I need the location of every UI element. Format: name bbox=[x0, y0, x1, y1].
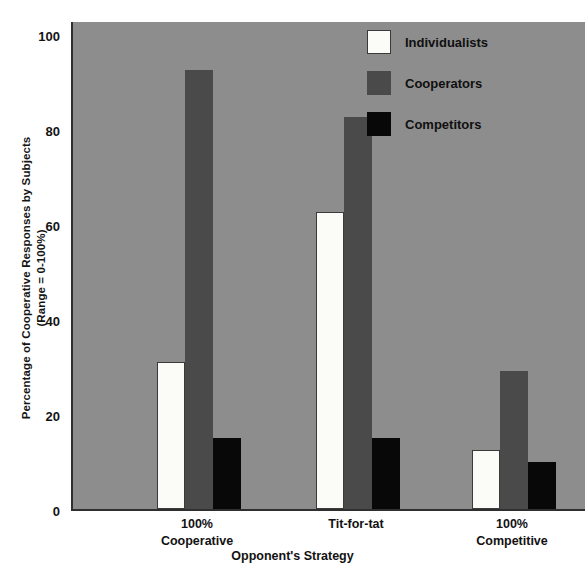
bar-individualists-2 bbox=[472, 450, 500, 509]
bar-cooperators-2 bbox=[500, 371, 528, 509]
legend-swatch-competitors-icon bbox=[367, 112, 391, 136]
bar-individualists-0 bbox=[157, 362, 185, 509]
bar-chart-figure: Percentage of Cooperative Responses by S… bbox=[0, 0, 585, 565]
y-tick-label: 80 bbox=[26, 124, 60, 139]
legend-label-cooperators: Cooperators bbox=[405, 76, 482, 91]
plot-area: Individualists Cooperators Competitors bbox=[71, 22, 585, 511]
x-tick-label: 100%Cooperative bbox=[161, 516, 233, 550]
y-tick-label: 40 bbox=[26, 314, 60, 329]
x-tick-label-line: 100% bbox=[161, 516, 233, 533]
bar-competitors-0 bbox=[213, 438, 241, 509]
bar-competitors-2 bbox=[528, 462, 556, 509]
legend-swatch-individualists-icon bbox=[367, 30, 391, 54]
x-tick-label-line: 100% bbox=[476, 516, 548, 533]
y-tick-label: 0 bbox=[26, 504, 60, 519]
bar-individualists-1 bbox=[316, 212, 344, 509]
legend-label-competitors: Competitors bbox=[405, 117, 482, 132]
x-tick-label: Tit-for-tat bbox=[328, 516, 383, 533]
y-axis-tick-labels: 020406080100 bbox=[26, 0, 60, 565]
y-tick-label: 60 bbox=[26, 219, 60, 234]
legend-label-individualists: Individualists bbox=[405, 35, 488, 50]
y-tick-label: 20 bbox=[26, 409, 60, 424]
x-tick-label-line: Tit-for-tat bbox=[328, 516, 383, 533]
legend: Individualists Cooperators Competitors bbox=[367, 30, 488, 136]
bar-competitors-1 bbox=[372, 438, 400, 509]
legend-item-competitors: Competitors bbox=[367, 112, 488, 136]
legend-item-cooperators: Cooperators bbox=[367, 71, 488, 95]
bar-cooperators-1 bbox=[344, 117, 372, 509]
x-axis-title: Opponent's Strategy bbox=[0, 549, 585, 563]
x-axis-tick-labels: 100%CooperativeTit-for-tat100%Competitiv… bbox=[71, 516, 585, 552]
legend-item-individualists: Individualists bbox=[367, 30, 488, 54]
x-tick-label-line: Competitive bbox=[476, 533, 548, 550]
y-tick-label: 100 bbox=[26, 29, 60, 44]
bars-container bbox=[73, 22, 585, 509]
legend-swatch-cooperators-icon bbox=[367, 71, 391, 95]
bar-cooperators-0 bbox=[185, 70, 213, 509]
x-tick-label-line: Cooperative bbox=[161, 533, 233, 550]
x-tick-label: 100%Competitive bbox=[476, 516, 548, 550]
